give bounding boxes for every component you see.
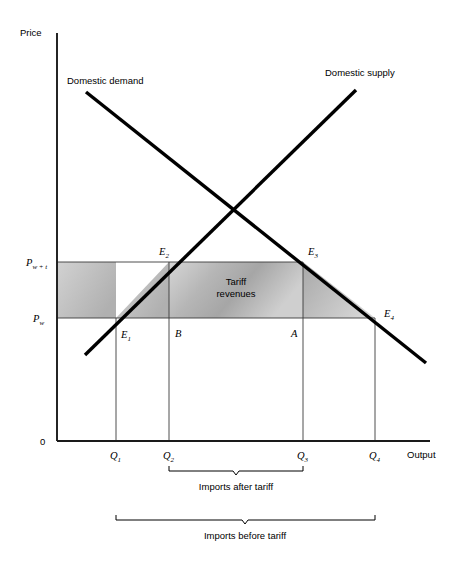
quantity-label-q3: Q3 xyxy=(297,450,309,464)
tariff-diagram-canvas: Domestic demand Domestic supply Price Ou… xyxy=(0,0,470,564)
quantity-label-q1-sub: 1 xyxy=(118,456,122,464)
bracket-after-path xyxy=(169,466,303,475)
price-label-pw-plus-t: Pw + t xyxy=(25,257,48,271)
region-producer-gain xyxy=(116,262,169,318)
price-label-pw-sub: w xyxy=(39,319,44,327)
tariff-revenues-label-line2: revenues xyxy=(216,288,255,299)
tariff-revenues-label-line1: Tariff xyxy=(226,276,247,287)
x-axis-label: Output xyxy=(407,449,436,460)
region-left-sliver xyxy=(57,262,116,318)
quantity-label-q2: Q2 xyxy=(163,450,175,464)
bracket-before-label: Imports before tariff xyxy=(204,530,287,541)
point-label-e4-sub: 4 xyxy=(390,314,394,322)
axes xyxy=(57,33,430,441)
point-label-e2-sub: 2 xyxy=(165,252,169,260)
region-deadweight-right xyxy=(303,262,375,318)
bracket-imports-after-tariff: Imports after tariff xyxy=(169,466,303,492)
quantity-axis-labels: Q1 Q2 Q3 Q4 xyxy=(110,450,381,464)
origin-label: 0 xyxy=(40,436,45,447)
price-label-pw: Pw xyxy=(32,313,44,327)
point-label-e3-sub: 3 xyxy=(313,252,318,260)
curves xyxy=(85,90,426,363)
quantity-label-q4: Q4 xyxy=(369,450,381,464)
quantity-label-q1: Q1 xyxy=(110,450,121,464)
point-label-e2: E2 xyxy=(158,246,169,260)
bracket-imports-before-tariff: Imports before tariff xyxy=(116,515,375,541)
price-axis-labels: Pw + t Pw xyxy=(25,257,48,327)
bracket-before-path xyxy=(116,515,375,524)
quantity-label-q3-sub: 3 xyxy=(304,456,309,464)
domestic-demand-curve xyxy=(86,92,426,363)
y-axis-label: Price xyxy=(20,27,42,38)
price-label-pw-plus-t-sub: w + t xyxy=(32,263,48,271)
tariff-diagram: Domestic demand Domestic supply Price Ou… xyxy=(0,0,470,564)
point-label-a: A xyxy=(290,328,298,339)
domestic-demand-label: Domestic demand xyxy=(67,75,144,86)
point-label-e3: E3 xyxy=(307,246,318,260)
quantity-label-q2-sub: 2 xyxy=(171,456,175,464)
point-label-e1: E1 xyxy=(120,329,131,343)
point-label-e1-sub: 1 xyxy=(127,335,131,343)
domestic-supply-label: Domestic supply xyxy=(325,67,395,78)
point-label-e4: E4 xyxy=(383,308,394,322)
quantity-label-q4-sub: 4 xyxy=(377,456,381,464)
point-label-b: B xyxy=(175,328,182,339)
bracket-after-label: Imports after tariff xyxy=(199,481,274,492)
